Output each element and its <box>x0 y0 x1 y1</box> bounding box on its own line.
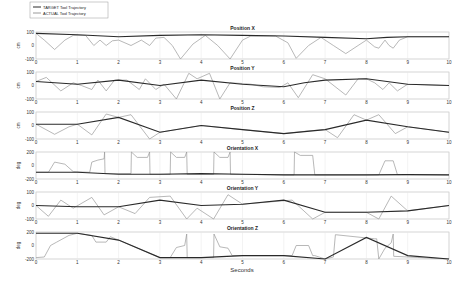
x-tick-label: 3 <box>159 180 162 185</box>
x-tick-label: 7 <box>324 220 327 225</box>
y-axis-label: deg <box>16 241 21 249</box>
x-tick-label: 0 <box>35 60 38 65</box>
x-tick-label: 6 <box>283 60 286 65</box>
x-tick-label: 8 <box>365 220 368 225</box>
x-tick-label: 0 <box>35 100 38 105</box>
x-tick-label: 2 <box>117 260 120 265</box>
subplot-group: 012345678910-1000100Position Xcm01234567… <box>16 25 452 265</box>
x-tick-label: 6 <box>283 180 286 185</box>
x-tick-label: 2 <box>117 180 120 185</box>
x-tick-label: 1 <box>76 60 79 65</box>
x-tick-label: 9 <box>406 180 409 185</box>
x-tick-label: 4 <box>200 100 203 105</box>
x-tick-label: 10 <box>446 260 452 265</box>
x-tick-label: 4 <box>200 140 203 145</box>
x-tick-label: 5 <box>241 260 244 265</box>
subplot-title: Position Y <box>230 65 255 71</box>
x-tick-label: 0 <box>35 220 38 225</box>
x-tick-label: 6 <box>283 140 286 145</box>
x-tick-label: 3 <box>159 100 162 105</box>
y-tick-label: 100 <box>26 30 34 35</box>
x-tick-label: 4 <box>200 220 203 225</box>
x-tick-label: 10 <box>446 180 452 185</box>
subplot-title: Position Z <box>230 105 254 111</box>
x-tick-label: 10 <box>446 220 452 225</box>
x-tick-label: 6 <box>283 100 286 105</box>
x-tick-label: 3 <box>159 220 162 225</box>
x-tick-label: 4 <box>200 60 203 65</box>
y-tick-label: -100 <box>25 97 35 102</box>
y-tick-label: 0 <box>31 203 34 208</box>
x-tick-label: 1 <box>76 100 79 105</box>
y-tick-label: 100 <box>26 110 34 115</box>
x-tick-label: 0 <box>35 260 38 265</box>
legend-actual-label: ACTUAL Tool Trajectory <box>43 11 86 16</box>
x-axis-label: Seconds <box>230 267 253 273</box>
x-tick-label: 6 <box>283 260 286 265</box>
subplot-title: Orientation Y <box>227 185 259 191</box>
x-tick-label: 3 <box>159 260 162 265</box>
legend-target-label: TARGET Tool Trajectory <box>43 5 86 10</box>
x-tick-label: 10 <box>446 140 452 145</box>
x-tick-label: 1 <box>76 260 79 265</box>
y-tick-label: 100 <box>26 70 34 75</box>
subplot-title: Position X <box>230 25 255 31</box>
x-tick-label: 10 <box>446 100 452 105</box>
y-tick-label: 200 <box>26 150 34 155</box>
y-tick-label: 100 <box>26 190 34 195</box>
y-axis-label: deg <box>16 201 21 209</box>
x-tick-label: 2 <box>117 60 120 65</box>
y-tick-label: 0 <box>31 43 34 48</box>
x-tick-label: 4 <box>200 260 203 265</box>
x-tick-label: 7 <box>324 60 327 65</box>
subplot-title: Orientation X <box>227 145 259 151</box>
y-tick-label: -200 <box>25 177 35 182</box>
x-tick-label: 8 <box>365 60 368 65</box>
y-tick-label: 0 <box>31 243 34 248</box>
x-tick-label: 2 <box>117 220 120 225</box>
x-tick-label: 1 <box>76 140 79 145</box>
x-tick-label: 7 <box>324 180 327 185</box>
x-tick-label: 9 <box>406 140 409 145</box>
legend: TARGET Tool Trajectory ACTUAL Tool Traje… <box>30 2 108 18</box>
y-tick-label: -200 <box>25 257 35 262</box>
x-tick-label: 1 <box>76 220 79 225</box>
x-tick-label: 7 <box>324 140 327 145</box>
subplot-title: Orientation Z <box>227 225 258 231</box>
x-tick-label: 0 <box>35 140 38 145</box>
x-tick-label: 8 <box>365 140 368 145</box>
x-tick-label: 2 <box>117 100 120 105</box>
x-tick-label: 10 <box>446 60 452 65</box>
y-axis-label: deg <box>16 161 21 169</box>
x-tick-label: 3 <box>159 60 162 65</box>
y-tick-label: -100 <box>25 137 35 142</box>
y-tick-label: -100 <box>25 57 35 62</box>
x-tick-label: 7 <box>324 260 327 265</box>
x-tick-label: 8 <box>365 180 368 185</box>
x-tick-label: 4 <box>200 180 203 185</box>
y-tick-label: 200 <box>26 230 34 235</box>
x-tick-label: 6 <box>283 220 286 225</box>
y-tick-label: 0 <box>31 123 34 128</box>
x-tick-label: 0 <box>35 180 38 185</box>
x-tick-label: 8 <box>365 100 368 105</box>
y-tick-label: 0 <box>31 163 34 168</box>
x-tick-label: 9 <box>406 60 409 65</box>
y-axis-label: cm <box>16 122 21 128</box>
y-tick-label: 0 <box>31 83 34 88</box>
y-axis-label: cm <box>16 42 21 48</box>
x-tick-label: 1 <box>76 180 79 185</box>
x-tick-label: 9 <box>406 220 409 225</box>
x-tick-label: 2 <box>117 140 120 145</box>
x-tick-label: 8 <box>365 260 368 265</box>
x-tick-label: 3 <box>159 140 162 145</box>
trajectory-chart: 012345678910-1000100Position Xcm01234567… <box>0 0 474 286</box>
y-tick-label: -100 <box>25 217 35 222</box>
x-tick-label: 9 <box>406 100 409 105</box>
x-tick-label: 7 <box>324 100 327 105</box>
y-axis-label: cm <box>16 82 21 88</box>
x-tick-label: 9 <box>406 260 409 265</box>
